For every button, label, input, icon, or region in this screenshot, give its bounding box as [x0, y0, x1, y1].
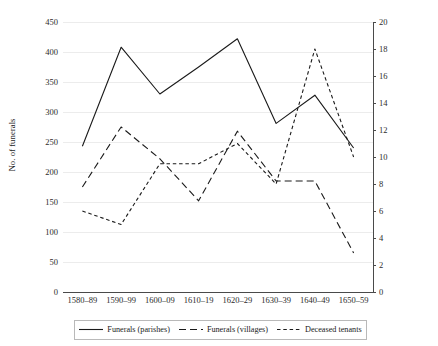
right-axis-tickmark [373, 49, 376, 50]
x-axis-tick: 1620–29 [223, 296, 253, 305]
right-axis-tickmark [373, 130, 376, 131]
left-axis-tick: 300 [45, 108, 58, 117]
right-axis-tickmark [373, 238, 376, 239]
right-axis-tickmark [373, 211, 376, 212]
right-axis-tick: 10 [379, 153, 388, 162]
right-axis-tick: 6 [379, 207, 383, 216]
x-axis-tick: 1610–19 [184, 296, 214, 305]
right-axis-tickmark [373, 184, 376, 185]
left-axis-tick: 350 [45, 78, 58, 87]
right-axis-tickmark [373, 265, 376, 266]
x-axis-tick: 1590–99 [106, 296, 136, 305]
legend-item: Deceased tenants [277, 326, 362, 334]
left-axis-tick: 450 [45, 18, 58, 27]
left-axis-title: No. of funerals [7, 105, 17, 185]
left-axis-tick: 250 [45, 138, 58, 147]
right-axis-tick: 8 [379, 180, 383, 189]
right-axis-tick: 4 [379, 234, 383, 243]
series-lines [63, 22, 373, 292]
legend-swatch [277, 326, 301, 333]
x-axis-tick: 1580–89 [68, 296, 98, 305]
right-axis-tick: 16 [379, 72, 388, 81]
left-axis-tick: 50 [50, 258, 59, 267]
right-axis-tickmark [373, 22, 376, 23]
legend-label: Funerals (parishes) [107, 326, 170, 334]
left-axis-tick: 0 [54, 288, 58, 297]
x-axis-tick: 1650–59 [339, 296, 369, 305]
legend-item: Funerals (villages) [179, 326, 268, 334]
right-axis-tick: 12 [379, 126, 388, 135]
x-axis-tick: 1640–49 [300, 296, 330, 305]
right-axis-tickmark [373, 76, 376, 77]
legend-swatch [179, 326, 203, 333]
left-axis-tick: 100 [45, 228, 58, 237]
right-axis-tickmark [373, 292, 376, 293]
left-axis-tick: 150 [45, 198, 58, 207]
left-axis-tick: 200 [45, 168, 58, 177]
gridline [63, 292, 373, 293]
legend-label: Funerals (villages) [207, 326, 268, 334]
chart-legend: Funerals (parishes)Funerals (villages)De… [74, 320, 367, 340]
plot-area: 050100150200250300350400450 024681012141… [63, 22, 373, 292]
right-axis-tick: 18 [379, 45, 388, 54]
legend-item: Funerals (parishes) [79, 326, 170, 334]
legend-swatch [79, 326, 103, 333]
right-axis-tick: 0 [379, 288, 383, 297]
legend-label: Deceased tenants [305, 326, 362, 334]
series-line [82, 49, 353, 225]
chart-figure: 050100150200250300350400450 024681012141… [0, 0, 438, 346]
right-axis-tick: 14 [379, 99, 388, 108]
right-axis-tickmark [373, 103, 376, 104]
x-axis-tick: 1600–09 [145, 296, 175, 305]
left-axis-tick: 400 [45, 48, 58, 57]
x-axis-tick-labels: 1580–891590–991600–091610–191620–291630–… [63, 296, 373, 312]
right-axis-tick: 20 [379, 18, 388, 27]
series-line [82, 127, 353, 253]
right-axis-tick: 2 [379, 261, 383, 270]
x-axis-tick: 1630–39 [261, 296, 291, 305]
right-axis-tickmark [373, 157, 376, 158]
